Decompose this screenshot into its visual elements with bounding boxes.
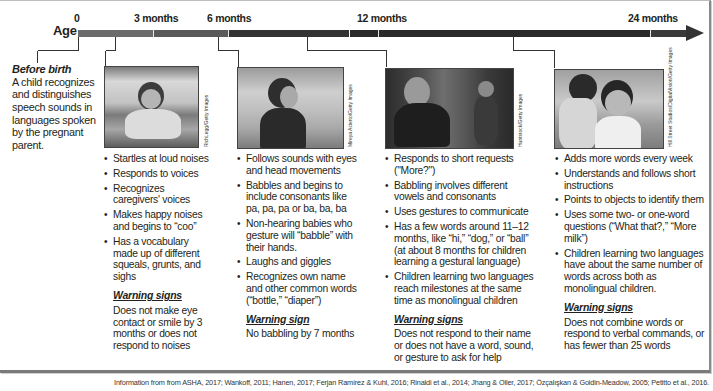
milestone-item: Laughs and giggles — [237, 256, 362, 268]
milestone-item: Children learning two languages have abo… — [555, 248, 705, 295]
milestone-item: Understands and follows short instructio… — [555, 168, 705, 192]
timeline-bar-segment — [350, 30, 650, 37]
photo-credit: RichLegg/Getty Images — [203, 67, 209, 147]
milestone-item: Babbles and begins to include consonants… — [237, 180, 362, 215]
warning-text: Does not make eye contact or smile by 3 … — [104, 305, 212, 352]
connector-line — [105, 51, 106, 66]
milestone-item: Makes happy noises and begins to “coo” — [104, 209, 212, 233]
milestone-item: Non-hearing babies who gesture will “bab… — [237, 218, 362, 253]
connector-line — [218, 37, 239, 51]
photo-credit: Huntstock/Getty Images — [517, 67, 523, 147]
milestone-item: Has a few words around 11–12 months, lik… — [385, 221, 535, 268]
connector-line — [386, 51, 387, 67]
age-axis-label: Age — [53, 23, 77, 38]
tick-label-24-months: 24 months — [628, 12, 678, 24]
tick-divider — [650, 30, 651, 37]
connector-line — [554, 51, 555, 68]
before-birth-block: Before birth A child recognizes and dist… — [12, 64, 96, 151]
timeline-bar-segment — [78, 30, 153, 37]
photo-credit: Hill Street Studios/DigitalVision/Getty … — [667, 67, 673, 147]
milestone-column-3-months: Startles at loud noises Responds to voic… — [104, 153, 212, 352]
tick-divider — [378, 30, 379, 37]
connector-line — [307, 37, 387, 51]
milestone-item: Babbling involves different vowels and c… — [385, 180, 535, 204]
timeline-bar-segment — [154, 30, 228, 37]
warning-title: Warning signs — [555, 302, 705, 314]
milestone-item: Adds more words every week — [555, 153, 705, 165]
tick-label-6-months: 6 months — [207, 12, 251, 24]
photo-children-whispering — [554, 69, 664, 149]
connector-line — [513, 37, 555, 51]
source-citation: Information from from ASHA, 2017; Wankof… — [114, 378, 709, 387]
milestone-item: Points to objects to identify them — [555, 194, 705, 206]
milestone-column-12-months: Responds to short requests ("More?") Bab… — [385, 153, 535, 364]
warning-title: Warning signs — [385, 314, 535, 326]
milestone-item: Follows sounds with eyes and head moveme… — [237, 153, 362, 177]
milestone-item: Recognizes own name and other common wor… — [237, 271, 362, 306]
before-birth-title: Before birth — [12, 64, 96, 76]
photo-credit: Mireya Acierto/Getty Images — [347, 67, 353, 147]
milestone-item: Has a vocabulary made up of different sq… — [104, 236, 212, 283]
photo-baby-laughing — [104, 66, 199, 148]
milestone-item: Responds to short requests ("More?") — [385, 153, 535, 177]
photo-adult-and-toddler — [385, 68, 514, 149]
milestone-item: Children learning two languages reach mi… — [385, 271, 535, 306]
before-birth-text: A child recognizes and distinguishes spe… — [12, 76, 96, 152]
warning-text: No babbling by 7 months — [237, 328, 362, 340]
milestone-item: Startles at loud noises — [104, 153, 212, 165]
milestone-item: Recognizes caregivers' voices — [104, 183, 212, 207]
connector-line — [238, 51, 239, 67]
milestone-item: Responds to voices — [104, 168, 212, 180]
timeline-bar-segment — [229, 30, 349, 37]
tick-label-0: 0 — [74, 12, 80, 24]
milestone-item: Uses some two- or one-word questions (“W… — [555, 209, 705, 244]
timeline-arrow-icon — [686, 25, 704, 41]
warning-title: Warning sign — [237, 314, 362, 326]
milestones-panel: Age 0 3 months 6 months 12 months 24 mon… — [0, 0, 711, 373]
timeline-bar-segment — [651, 30, 689, 37]
connector-line — [106, 37, 116, 51]
photo-baby-sitting — [237, 67, 344, 149]
tick-divider — [153, 30, 154, 37]
connector-line — [38, 37, 79, 51]
warning-text: Does not respond to their name or does n… — [385, 328, 535, 363]
tick-label-12-months: 12 months — [357, 12, 407, 24]
milestone-item: Uses gestures to communicate — [385, 206, 535, 218]
tick-label-3-months: 3 months — [134, 12, 178, 24]
connector-line — [37, 51, 38, 63]
milestone-column-24-months: Adds more words every week Understands a… — [555, 153, 705, 352]
warning-text: Does not combine words or respond to ver… — [555, 317, 705, 352]
warning-title: Warning signs — [104, 290, 212, 302]
milestone-column-6-months: Follows sounds with eyes and head moveme… — [237, 153, 362, 340]
tick-divider — [228, 30, 229, 37]
